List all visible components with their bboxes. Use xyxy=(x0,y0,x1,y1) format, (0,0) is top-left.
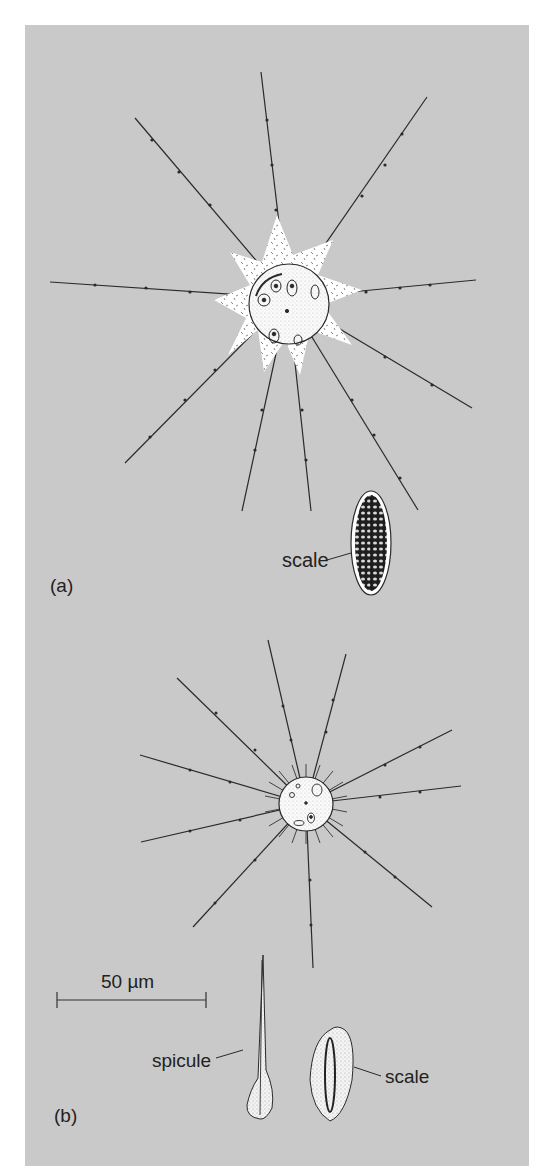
cell-body-texture-a xyxy=(249,264,329,344)
scale-b-label: scale xyxy=(385,1066,429,1087)
panel-a-label: (a) xyxy=(50,575,73,596)
spicule-label: spicule xyxy=(152,1050,211,1071)
figure: scale (a) xyxy=(0,0,554,1176)
panel-b-label: (b) xyxy=(54,1105,77,1126)
scale-a-label: scale xyxy=(282,549,329,571)
scale-bar-label: 50 µm xyxy=(101,971,154,992)
panel-background xyxy=(25,25,529,1166)
